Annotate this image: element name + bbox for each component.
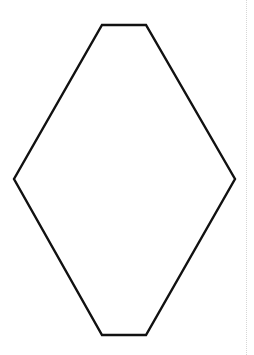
board-border (14, 25, 235, 335)
puzzle-board (0, 0, 254, 355)
page-divider (246, 0, 247, 355)
